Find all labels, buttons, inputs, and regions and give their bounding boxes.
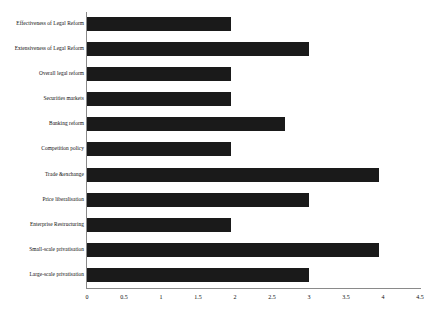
- x-tick-label: 1.5: [186, 292, 210, 302]
- bar: [87, 193, 309, 207]
- bar-row: Securities markets: [87, 87, 420, 112]
- category-label: Small-scale privatisation: [2, 242, 84, 257]
- x-tick-label: 4.5: [408, 292, 432, 302]
- bar-chart: Effectiveness of Legal ReformExtensivene…: [0, 0, 437, 320]
- bar-row: Overall legal reform: [87, 62, 420, 87]
- bar: [87, 168, 379, 182]
- bar-row: Competition policy: [87, 137, 420, 162]
- bar-row: Effectiveness of Legal Reform: [87, 12, 420, 37]
- bar: [87, 268, 309, 282]
- category-label: Enterprise Restructuring: [2, 217, 84, 232]
- category-label: Competition policy: [2, 141, 84, 156]
- bar-row: Banking reform: [87, 112, 420, 137]
- x-tick-label: 1: [149, 292, 173, 302]
- bar: [87, 117, 285, 131]
- x-tick-label: 0: [75, 292, 99, 302]
- x-tick-label: 2.5: [260, 292, 284, 302]
- category-label: Extensiveness of Legal Reform: [2, 41, 84, 56]
- bar-row: Price liberalisation: [87, 188, 420, 213]
- bar: [87, 67, 231, 81]
- bar: [87, 218, 231, 232]
- bar-row: Trade &exchange: [87, 163, 420, 188]
- x-tick-label: 4: [371, 292, 395, 302]
- bar-row: Extensiveness of Legal Reform: [87, 37, 420, 62]
- category-label: Banking reform: [2, 116, 84, 131]
- x-axis-line: [86, 288, 421, 289]
- bar: [87, 142, 231, 156]
- category-label: Securities markets: [2, 91, 84, 106]
- category-label: Effectiveness of Legal Reform: [2, 16, 84, 31]
- category-label: Large-scale privatisation: [2, 267, 84, 282]
- bar: [87, 17, 231, 31]
- bar-row: Enterprise Restructuring: [87, 213, 420, 238]
- category-label: Overall legal reform: [2, 66, 84, 81]
- x-tick-label: 0.5: [112, 292, 136, 302]
- x-tick-label: 3: [297, 292, 321, 302]
- bar: [87, 42, 309, 56]
- category-label: Price liberalisation: [2, 192, 84, 207]
- bar-row: Large-scale privatisation: [87, 263, 420, 288]
- bar: [87, 92, 231, 106]
- bar: [87, 243, 379, 257]
- x-tick-label: 3.5: [334, 292, 358, 302]
- plot-area: Effectiveness of Legal ReformExtensivene…: [87, 12, 420, 288]
- x-tick-label: 2: [223, 292, 247, 302]
- category-label: Trade &exchange: [2, 167, 84, 182]
- bar-row: Small-scale privatisation: [87, 238, 420, 263]
